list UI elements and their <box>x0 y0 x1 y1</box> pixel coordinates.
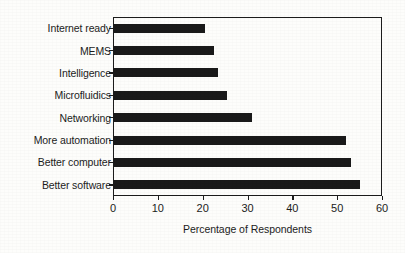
x-tick-label: 0 <box>110 202 116 214</box>
bar <box>113 158 351 167</box>
x-tick-label: 30 <box>241 202 253 214</box>
bar-row <box>113 107 382 128</box>
category-label: Better software <box>42 179 113 191</box>
x-tick-label: 10 <box>152 202 164 214</box>
bar <box>113 24 205 33</box>
category-label-row: Intelligence <box>0 62 113 83</box>
bar-row <box>113 130 382 151</box>
bar-row <box>113 40 382 61</box>
bar-chart-figure: Internet readyMEMSIntelligenceMicrofluid… <box>0 0 405 253</box>
bar-row <box>113 174 382 195</box>
bar <box>113 68 218 77</box>
category-label: Microfluidics <box>55 89 113 101</box>
bar <box>113 136 346 145</box>
x-tick-mark <box>292 196 293 200</box>
x-tick-label: 20 <box>197 202 209 214</box>
bar-row <box>113 18 382 39</box>
x-tick-mark <box>203 196 204 200</box>
x-tick-label: 40 <box>286 202 298 214</box>
bar <box>113 91 227 100</box>
bar-row <box>113 85 382 106</box>
category-label-row: Better software <box>0 174 113 195</box>
x-tick-label: 60 <box>376 202 388 214</box>
bar <box>113 46 214 55</box>
category-label-row: More automation <box>0 130 113 151</box>
x-tick-label: 50 <box>331 202 343 214</box>
category-label: More automation <box>34 134 113 146</box>
category-label-row: Microfluidics <box>0 85 113 106</box>
bar-row <box>113 62 382 83</box>
category-label-row: MEMS <box>0 40 113 61</box>
x-tick-mark <box>113 196 114 200</box>
category-axis: Internet readyMEMSIntelligenceMicrofluid… <box>0 17 113 196</box>
category-label-row: Networking <box>0 107 113 128</box>
bar <box>113 113 252 122</box>
bar-row <box>113 152 382 173</box>
category-label-row: Better computer <box>0 152 113 173</box>
x-tick-mark <box>158 196 159 200</box>
category-label: Internet ready <box>48 22 113 34</box>
category-label: Networking <box>59 112 113 124</box>
category-label: Better computer <box>38 156 113 168</box>
bars-container <box>113 17 382 196</box>
x-tick-mark <box>382 196 383 200</box>
category-label-row: Internet ready <box>0 18 113 39</box>
x-tick-mark <box>248 196 249 200</box>
x-axis-title: Percentage of Respondents <box>113 223 382 235</box>
category-label: Intelligence <box>59 67 113 79</box>
bar <box>113 180 360 189</box>
x-tick-mark <box>337 196 338 200</box>
